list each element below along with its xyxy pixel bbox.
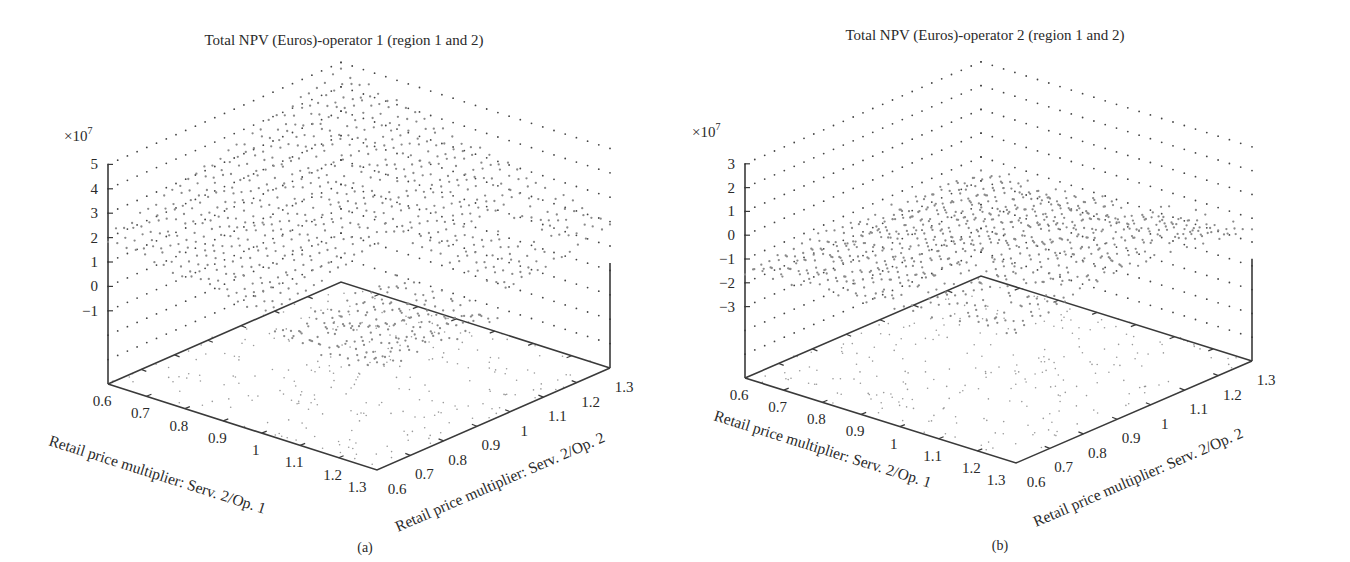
y-tick-label: 0.7 (415, 466, 434, 482)
figure: Total NPV (Euros)-operator 1 (region 1 a… (0, 0, 1350, 562)
x-tick-label: 0.9 (846, 423, 865, 439)
z-tick-label: 1 (91, 254, 99, 270)
y-tick-label: 0.6 (1027, 474, 1046, 490)
y-tick-label: 1.2 (1223, 387, 1242, 403)
panel-b-caption: (b) (992, 538, 1009, 554)
panel-a-title: Total NPV (Euros)-operator 1 (region 1 a… (204, 32, 483, 49)
x-tick-label: 0.9 (208, 430, 227, 446)
y-tick-label: 1 (520, 423, 528, 439)
panel-a-gridlines (107, 62, 611, 361)
y-tick-label: 0.8 (1088, 445, 1107, 461)
x-tick-label: 1.3 (987, 472, 1006, 488)
y-tick-label: 0.7 (1054, 459, 1073, 475)
figure-canvas: Total NPV (Euros)-operator 1 (region 1 a… (0, 0, 1350, 562)
y-tick-label: 1.3 (615, 379, 634, 395)
y-tick-label: 0.8 (448, 452, 467, 468)
x-tick-label: 0.8 (169, 418, 188, 434)
z-tick-label: −1 (82, 303, 98, 319)
y-tick-label: 1 (1161, 416, 1169, 432)
z-tick-label: −3 (719, 299, 735, 315)
z-tick-label: 0 (91, 278, 99, 294)
x-tick-label: 1.1 (285, 454, 304, 470)
z-tick-label: 2 (728, 180, 736, 196)
panel-b: Total NPV (Euros)-operator 2 (region 1 a… (692, 27, 1275, 554)
y-tick-label: 0.6 (388, 481, 407, 497)
panel-a-x-axis-label: Retail price multiplier: Serv. 2/Op. 1 (47, 432, 268, 517)
panel-a: Total NPV (Euros)-operator 1 (region 1 a… (47, 32, 633, 556)
x-tick-label: 1 (252, 442, 260, 458)
y-tick-label: 1.1 (1189, 401, 1208, 417)
x-tick-label: 0.7 (768, 399, 787, 415)
z-tick-label: 2 (91, 230, 99, 246)
x-tick-label: 1 (890, 436, 898, 452)
z-tick-label: 3 (91, 205, 99, 221)
x-tick-label: 1.2 (323, 467, 342, 483)
y-tick-label: 1.3 (1257, 372, 1276, 388)
panel-a-z-multiplier: ×107 (64, 125, 92, 144)
x-tick-label: 1.1 (923, 448, 942, 464)
panel-a-x-ticks: 0.60.70.80.911.11.21.3 (93, 393, 367, 495)
panel-b-title: Total NPV (Euros)-operator 2 (region 1 a… (845, 27, 1124, 44)
panel-b-z-ticks: 3210−1−2−3 (719, 156, 735, 315)
panel-b-z-multiplier: ×107 (692, 121, 720, 140)
x-tick-label: 1.2 (962, 460, 981, 476)
z-tick-label: 0 (728, 227, 736, 243)
y-tick-label: 1.1 (548, 408, 567, 424)
y-tick-label: 1.2 (581, 394, 600, 410)
panel-a-floor-projection (111, 291, 591, 465)
z-tick-label: 5 (91, 156, 99, 172)
z-tick-label: −1 (719, 251, 735, 267)
x-tick-label: 0.6 (730, 387, 749, 403)
x-tick-label: 1.3 (348, 479, 367, 495)
x-tick-label: 0.7 (131, 405, 150, 421)
panel-a-data-points (107, 68, 611, 367)
panel-a-z-ticks: 543210−1 (82, 156, 98, 318)
panel-a-caption: (a) (357, 540, 373, 556)
x-tick-label: 0.6 (93, 393, 112, 409)
z-tick-label: 1 (728, 203, 736, 219)
z-tick-label: 4 (91, 181, 99, 197)
z-tick-label: −2 (719, 275, 735, 291)
panel-b-gridlines (744, 61, 1253, 355)
x-tick-label: 0.8 (807, 411, 826, 427)
panel-b-data-points (744, 169, 1253, 334)
y-tick-label: 0.9 (481, 437, 500, 453)
y-tick-label: 0.9 (1122, 430, 1141, 446)
z-tick-label: 3 (728, 156, 736, 172)
